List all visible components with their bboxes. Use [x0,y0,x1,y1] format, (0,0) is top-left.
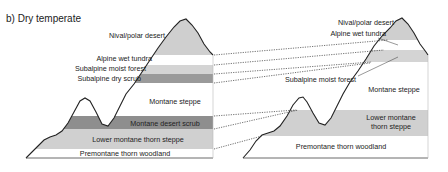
left-label-subalpine-dry-scrub: Subalpine dry scrub [77,74,141,83]
right-label-alpine-wet-tundra: Alpine wet tundra [330,29,386,38]
left-label-nival: Nival/polar desert [109,31,165,40]
right-label-premontane-thorn-woodland: Premontane thorn woodland [296,142,386,151]
left-label-lower-montane-thorn-steppe: Lower montane thorn steppe [92,135,184,144]
right-label-montane-steppe: Montane steppe [368,85,420,94]
right-label-nival: Nival/polar desert [338,18,394,27]
left-label-montane-steppe: Montane steppe [149,97,201,106]
right-label-subalpine-moist-forest: Subalpine moist forest [285,75,356,84]
vegetation-zone-diagram: b) Dry temperate Nival/polar desert [0,0,448,172]
right-label-lower-montane: Lower montane [366,113,416,122]
diagram-title: b) Dry temperate [6,13,81,24]
left-label-premontane-thorn-woodland: Premontane thorn woodland [80,149,170,158]
right-label-thorn-steppe: thorn steppe [371,122,411,131]
left-label-montane-desert-scrub: Montane desert scrub [130,119,200,128]
left-label-alpine-wet-tundra: Alpine wet tundra [96,54,152,63]
left-label-subalpine-moist-forest: Subalpine moist forest [75,64,146,73]
